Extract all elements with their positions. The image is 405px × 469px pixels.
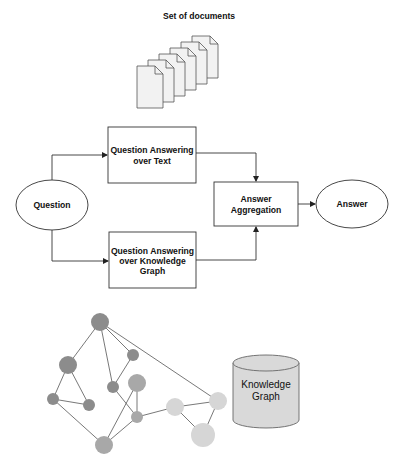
qa-kg-line-1: Question Answering: [111, 246, 194, 256]
arrow-qa-text-to-aggregation: [196, 153, 256, 181]
graph-nodes: [47, 313, 227, 454]
arrow-question-to-qa-text: [52, 155, 107, 181]
graph-node: [191, 423, 215, 447]
aggregation-node: Answer Aggregation: [214, 182, 298, 226]
qa-kg-line-2: over Knowledge: [119, 256, 186, 266]
diagram-title: Set of documents: [163, 11, 235, 21]
document-icon: [137, 66, 163, 108]
database-label-line-2: Graph: [252, 391, 280, 402]
answer-node: Answer: [316, 180, 388, 228]
arrow-question-to-qa-kg: [52, 229, 108, 261]
aggregation-line-1: Answer: [240, 194, 272, 204]
graph-node: [83, 399, 95, 411]
graph-node: [59, 356, 77, 374]
qa-text-line-2: over Text: [133, 156, 171, 166]
diagram-canvas: Set of documents Question Question Answe…: [0, 0, 405, 469]
graph-node: [131, 411, 143, 423]
question-label: Question: [33, 200, 70, 210]
graph-node: [47, 393, 59, 405]
graph-edge: [53, 399, 104, 445]
graph-node: [107, 381, 119, 393]
qa-text-line-1: Question Answering: [110, 145, 193, 155]
graph-node: [127, 349, 139, 361]
qa-kg-node: Question Answering over Knowledge Graph: [109, 232, 196, 288]
qa-kg-line-3: Graph: [140, 266, 165, 276]
graph-node: [166, 398, 184, 416]
answer-label: Answer: [336, 199, 368, 209]
aggregation-line-2: Aggregation: [231, 205, 282, 215]
graph-node: [95, 436, 113, 454]
qa-text-node: Question Answering over Text: [108, 127, 196, 183]
graph-node: [91, 313, 109, 331]
document-stack-icon: [137, 36, 218, 108]
graph-edge: [100, 322, 113, 387]
graph-node: [128, 374, 146, 392]
database-label-line-1: Knowledge: [241, 379, 291, 390]
knowledge-graph-database-icon: Knowledge Graph: [233, 355, 299, 428]
graph-node: [209, 392, 227, 410]
question-node: Question: [16, 180, 88, 230]
arrow-qa-kg-to-aggregation: [196, 227, 256, 260]
